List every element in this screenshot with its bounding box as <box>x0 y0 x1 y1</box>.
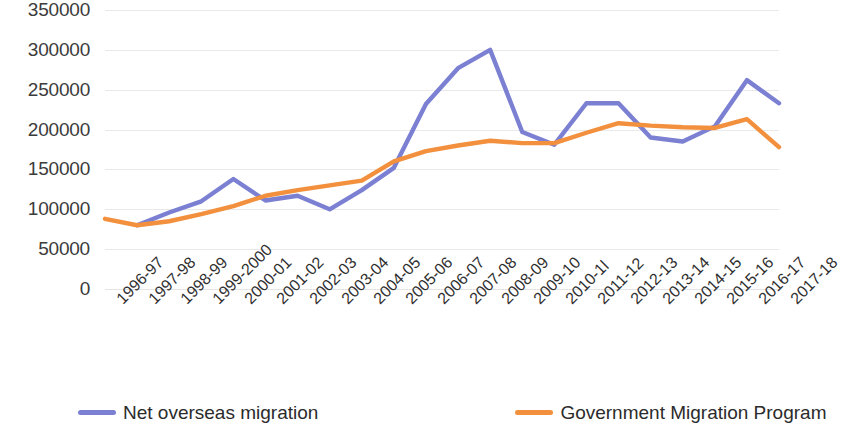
chart-legend: Net overseas migrationGovernment Migrati… <box>0 396 795 429</box>
x-axis-tick-label: 2002-03 <box>306 295 319 308</box>
x-axis-tick-label: 2010-1l <box>562 295 575 308</box>
x-axis-tick-label: 2014-15 <box>691 295 704 308</box>
x-axis-tick-label: 2006-07 <box>434 295 447 308</box>
x-axis-tick-label: 2009-10 <box>530 295 543 308</box>
x-axis-tick-label: 2016-17 <box>755 295 768 308</box>
x-axis-tick-label: 1996-97 <box>113 295 126 308</box>
y-axis: 0500001000001500002000002500003000003500… <box>0 0 96 300</box>
x-axis-tick-label: 2015-16 <box>723 295 736 308</box>
legend-swatch-icon <box>515 410 553 415</box>
legend-item-0[interactable]: Net overseas migration <box>78 402 318 424</box>
x-axis-tick-label: 2007-08 <box>466 295 479 308</box>
x-axis-tick-label: 2011-12 <box>594 295 607 308</box>
y-axis-tick-label: 350000 <box>28 0 90 21</box>
x-axis-tick-label: 2000-01 <box>241 295 254 308</box>
series-line-1 <box>105 119 779 225</box>
x-axis-tick-label: 2012-13 <box>627 295 640 308</box>
series-line-0 <box>137 50 779 225</box>
plot-area <box>105 10 779 289</box>
x-axis-tick-label: 2017-18 <box>787 295 800 308</box>
x-axis-tick-label: 1999-2000 <box>209 295 222 308</box>
series-lines <box>105 10 779 289</box>
x-axis-tick-label: 2005-06 <box>402 295 415 308</box>
legend-swatch-icon <box>78 410 116 415</box>
x-axis-tick-label: 2003-04 <box>338 295 351 308</box>
y-axis-tick-label: 250000 <box>28 79 90 101</box>
y-axis-tick-label: 200000 <box>28 119 90 141</box>
x-axis: 1996-971997-981998-991999-20002000-01200… <box>0 289 795 389</box>
x-axis-tick-label: 1998-99 <box>177 295 190 308</box>
x-axis-tick-label: 2004-05 <box>370 295 383 308</box>
legend-label: Government Migration Program <box>560 402 826 424</box>
x-axis-tick-label: 2001-02 <box>273 295 286 308</box>
legend-label: Net overseas migration <box>123 402 318 424</box>
y-axis-tick-label: 50000 <box>38 238 90 260</box>
x-axis-tick-label: 1997-98 <box>145 295 158 308</box>
y-axis-tick-label: 300000 <box>28 39 90 61</box>
y-axis-tick-label: 100000 <box>28 198 90 220</box>
x-axis-tick-label: 2013-14 <box>659 295 672 308</box>
x-axis-tick-label: 2008-09 <box>498 295 511 308</box>
legend-item-1[interactable]: Government Migration Program <box>515 402 826 424</box>
y-axis-tick-label: 150000 <box>28 158 90 180</box>
